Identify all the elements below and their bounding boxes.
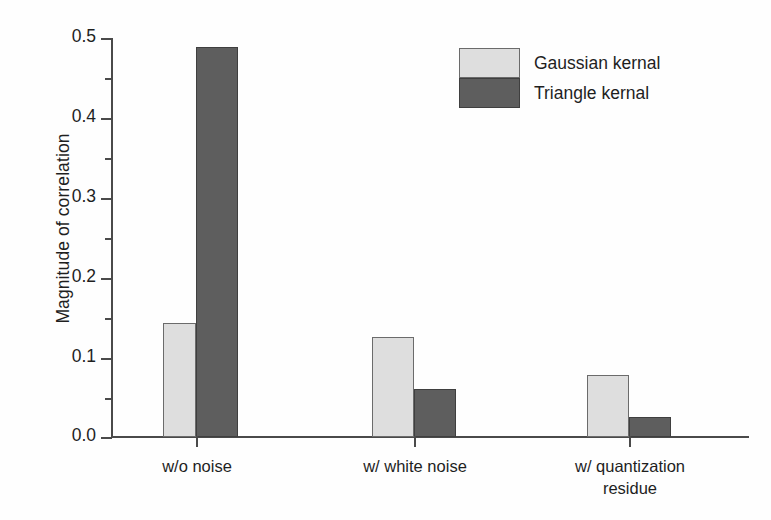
x-tick-label-quantization-residue: w/ quantization residue [575, 455, 685, 499]
legend-label-triangle: Triangle kernal [534, 83, 649, 104]
legend-swatch-triangle [459, 78, 520, 108]
x-tick-label-wo-noise: w/o noise [162, 455, 232, 477]
y-tick-label: 0.5 [72, 26, 96, 47]
bar-gaussian-white-noise [372, 337, 414, 437]
y-axis-title: Magnitude of correlation [53, 59, 74, 399]
bar-triangle-white-noise [414, 389, 456, 437]
y-tick-label: 0.4 [72, 106, 96, 127]
bar-triangle-wo-noise [196, 47, 238, 437]
y-tick-label: 0.3 [72, 186, 96, 207]
bar-triangle-quantization [629, 417, 671, 437]
x-tick-2 [414, 436, 416, 447]
x-tick-3 [629, 436, 631, 447]
y-tick-label: 0.1 [72, 346, 96, 367]
legend-item-gaussian: Gaussian kernal [459, 48, 660, 78]
legend-label-gaussian: Gaussian kernal [534, 53, 660, 74]
y-tick-label: 0.0 [72, 425, 96, 446]
x-tick-1 [196, 436, 198, 447]
bar-gaussian-wo-noise [163, 323, 196, 437]
bar-gaussian-quantization [587, 375, 629, 437]
y-tick-label: 0.2 [72, 266, 96, 287]
legend-item-triangle: Triangle kernal [459, 78, 660, 108]
bar-chart: Magnitude of correlation 0.5 0.4 0.3 0.2… [0, 0, 771, 520]
x-tick-label-white-noise: w/ white noise [363, 455, 467, 477]
legend: Gaussian kernal Triangle kernal [459, 48, 660, 108]
legend-swatch-gaussian [459, 48, 520, 78]
